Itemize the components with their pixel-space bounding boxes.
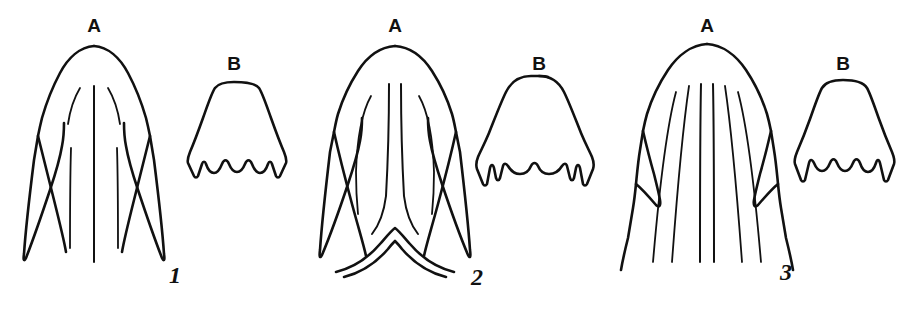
illustration-plate: A B 1 A (0, 0, 918, 316)
figure-label-3b: B (836, 53, 850, 74)
figure-label-1a: A (87, 15, 101, 36)
figure-label-1b: B (227, 53, 241, 74)
specimen-number-1: 1 (169, 262, 181, 288)
figure-label-2b: B (532, 53, 546, 74)
figure-label-3a: A (700, 15, 714, 36)
specimen-number-3: 3 (779, 259, 792, 285)
figure-label-2a: A (388, 15, 402, 36)
specimen-number-2: 2 (470, 264, 483, 290)
